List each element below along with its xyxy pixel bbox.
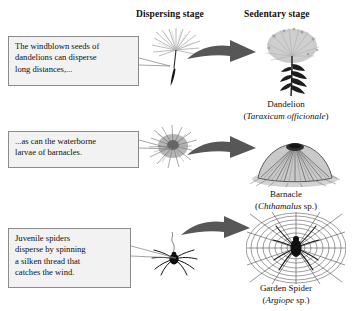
callout-dandelion-line-2: dandelions can disperse: [15, 52, 133, 63]
column-header-dispersing-stage: Dispersing stage: [136, 9, 204, 19]
callout-dandelion-line-3: long distances,...: [15, 64, 133, 75]
callout-spider: Juvenile spiders disperse by spinning a …: [8, 228, 131, 288]
callout-spider-line-3: a silken thread that: [15, 256, 125, 267]
dispersal-arrow-spider: [180, 216, 252, 250]
caption-dandelion-scientific: (Taraxicum officionale): [222, 111, 350, 123]
caption-dandelion-common: Dandelion: [222, 99, 350, 111]
dispersal-arrow-barnacle: [186, 136, 258, 170]
caption-garden-spider: Garden Spider (Argiope sp.): [222, 283, 350, 306]
barnacle-adult-illustration: [248, 136, 342, 188]
caption-spider-rank: sp.: [294, 295, 307, 305]
callout-barnacle-line-2: larvae of barnacles.: [15, 147, 133, 158]
dandelion-plant-illustration: [258, 26, 334, 100]
spider-web-illustration: [246, 212, 346, 284]
callout-dandelion: The windblown seeds of dandelions can di…: [8, 36, 139, 86]
caption-dandelion: Dandelion (Taraxicum officionale): [222, 99, 350, 122]
callout-spider-line-1: Juvenile spiders: [15, 233, 125, 244]
caption-barnacle: Barnacle (Chthamalus sp.): [222, 189, 350, 212]
caption-barnacle-binomial: Chthamalus: [258, 201, 302, 211]
caption-barnacle-common: Barnacle: [222, 189, 350, 201]
caption-spider-common: Garden Spider: [222, 283, 350, 295]
caption-barnacle-close-paren: ): [314, 201, 317, 211]
column-header-sedentary-stage: Sedentary stage: [244, 9, 310, 19]
caption-barnacle-rank: sp.: [302, 201, 315, 211]
caption-spider-close-paren: ): [307, 295, 310, 305]
caption-dandelion-binomial: Taraxicum officionale: [247, 111, 326, 121]
callout-spider-line-4: catches the wind.: [15, 267, 125, 278]
callout-spider-line-2: disperse by spinning: [15, 244, 125, 255]
callout-dandelion-line-1: The windblown seeds of: [15, 41, 133, 52]
caption-barnacle-scientific: (Chthamalus sp.): [222, 201, 350, 213]
caption-spider-scientific: (Argiope sp.): [222, 295, 350, 307]
dispersal-arrow-dandelion: [186, 40, 258, 74]
callout-barnacle: ...as can the waterborne larvae of barna…: [8, 131, 139, 168]
caption-dandelion-close-paren: ): [325, 111, 328, 121]
dispersal-figure: Dispersing stage Sedentary stage: [0, 0, 356, 311]
caption-spider-binomial: Argiope: [265, 295, 294, 305]
callout-barnacle-line-1: ...as can the waterborne: [15, 136, 133, 147]
